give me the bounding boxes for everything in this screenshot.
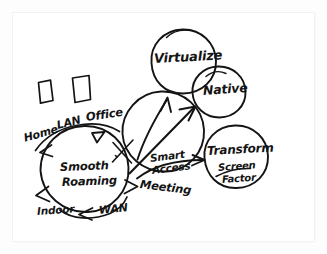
label-transform: Transform xyxy=(207,142,274,157)
label-virtualize: Virtualize xyxy=(154,48,223,65)
label-native: Native xyxy=(203,82,248,98)
label-wan: WAN xyxy=(98,202,128,216)
label-smooth-roaming-line2: Roaming xyxy=(62,175,117,188)
label-smooth-roaming-line1: Smooth xyxy=(60,160,109,173)
label-indoor: Indoor xyxy=(37,203,75,216)
whiteboard-canvas: Virtualize Native Transform Screen Facto… xyxy=(0,0,327,254)
